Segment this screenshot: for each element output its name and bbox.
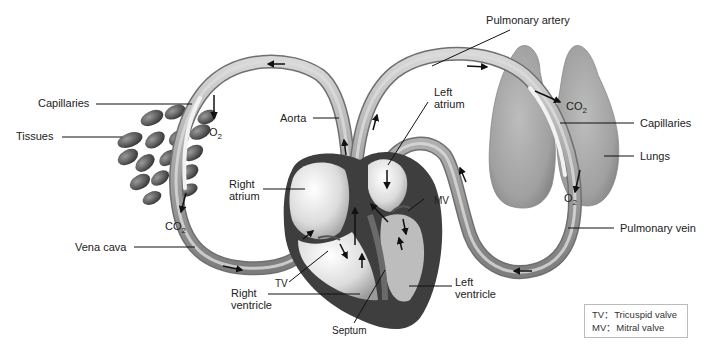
- label-o2-body: O2: [209, 126, 223, 141]
- legend-abbr: MV: [592, 322, 606, 333]
- label-pulmonary-vein: Pulmonary vein: [620, 222, 696, 234]
- label-right-atrium-1: Right: [229, 178, 255, 190]
- label-right-atrium-2: atrium: [229, 190, 260, 202]
- label-right-ventricle-1: Right: [231, 287, 257, 299]
- arrow-pa-up: [373, 115, 377, 130]
- legend-sep: ：: [604, 309, 614, 320]
- legend-row-tv: TV：Tricuspid valve: [592, 308, 687, 321]
- legend-sep: ：: [606, 322, 616, 333]
- label-left-ventricle-2: ventricle: [455, 288, 496, 300]
- legend-row-mv: MV：Mitral valve: [592, 321, 687, 334]
- legend: TV：Tricuspid valve MV：Mitral valve: [584, 304, 688, 338]
- label-left-ventricle-1: Left: [455, 276, 473, 288]
- label-vena-cava: Vena cava: [75, 241, 127, 253]
- label-tv: TV: [275, 278, 288, 289]
- right-atrium: [289, 162, 349, 239]
- heart: [284, 152, 443, 329]
- legend-meaning: Tricuspid valve: [614, 309, 677, 320]
- label-aorta: Aorta: [280, 112, 307, 124]
- circulation-diagram: Pulmonary artery Capillaries Tissues Aor…: [0, 0, 708, 352]
- label-capillaries-body: Capillaries: [38, 97, 90, 109]
- label-tissues: Tissues: [16, 130, 54, 142]
- label-capillaries-lungs: Capillaries: [640, 117, 692, 129]
- label-septum: Septum: [332, 325, 366, 336]
- label-mv: MV: [434, 195, 449, 206]
- label-pulmonary-artery: Pulmonary artery: [486, 14, 570, 26]
- label-lungs: Lungs: [640, 150, 670, 162]
- label-left-atrium-1: Left: [434, 86, 452, 98]
- label-right-ventricle-2: ventricle: [231, 299, 272, 311]
- label-left-atrium-2: atrium: [434, 98, 465, 110]
- legend-meaning: Mitral valve: [616, 322, 664, 333]
- legend-abbr: TV: [592, 309, 604, 320]
- tissue-cells: [115, 101, 219, 207]
- arrow-pa-top: [467, 66, 487, 67]
